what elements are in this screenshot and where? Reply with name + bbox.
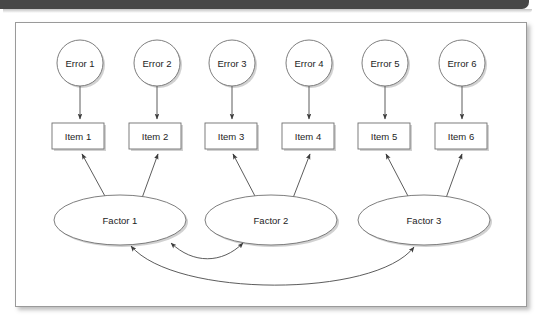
top-banner-shadow bbox=[3, 9, 532, 13]
figure-frame bbox=[15, 22, 527, 307]
figure-page: Error 1 Error 2 Error 3 Error 4 Error 5 … bbox=[0, 0, 542, 328]
top-banner-bar bbox=[0, 0, 529, 9]
